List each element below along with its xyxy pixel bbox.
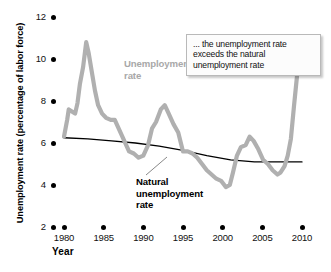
callout-line3: unemployment rate (193, 60, 264, 70)
natural-label-line3: rate (136, 199, 153, 210)
unemployment-label-line1: Unemployment (124, 58, 192, 69)
natural-label-line1: Natural (136, 176, 168, 187)
x-axis-label: Year (52, 246, 74, 257)
callout-line1: ... the unemployment (193, 39, 270, 49)
callout-annotation: ... the unemployment rate exceeds the na… (186, 34, 321, 76)
natural-rate-series-label: Natural unemployment rate (136, 176, 203, 211)
unemployment-label-line2: rate (124, 70, 141, 81)
natural-label-line2: unemployment (136, 188, 203, 199)
natural-label-leader-line (146, 157, 167, 175)
unemployment-rate-series-label: Unemployment rate (124, 58, 192, 81)
unemployment-rate-chart: Unemployment rate (percentage of labor f… (0, 0, 331, 272)
